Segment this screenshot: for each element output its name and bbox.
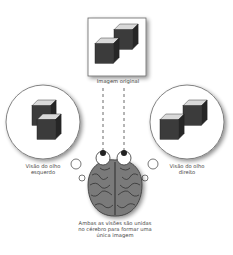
brain-caption: Ambas as visões são unidas no cérebro pa… [70,220,160,238]
right-eye-view-label: Visão do olho direito [160,163,214,175]
left-eye-view-bubble [6,85,80,159]
left-eye-view-label: Visão do olho esquerdo [16,163,70,175]
original-image-label-text: Imagem original [97,78,139,84]
right-eye-view-label-line2: direito [160,169,214,175]
left-eye-view-label-line2: esquerdo [16,169,70,175]
stereo-vision-diagram [0,0,233,255]
right-eye-view-bubble [150,85,224,159]
brain-caption-line3: única imagem [70,232,160,238]
brain-icon [88,160,142,216]
sight-lines [103,88,124,152]
original-image-label: Imagem original [88,78,148,84]
original-image-frame [88,18,146,76]
